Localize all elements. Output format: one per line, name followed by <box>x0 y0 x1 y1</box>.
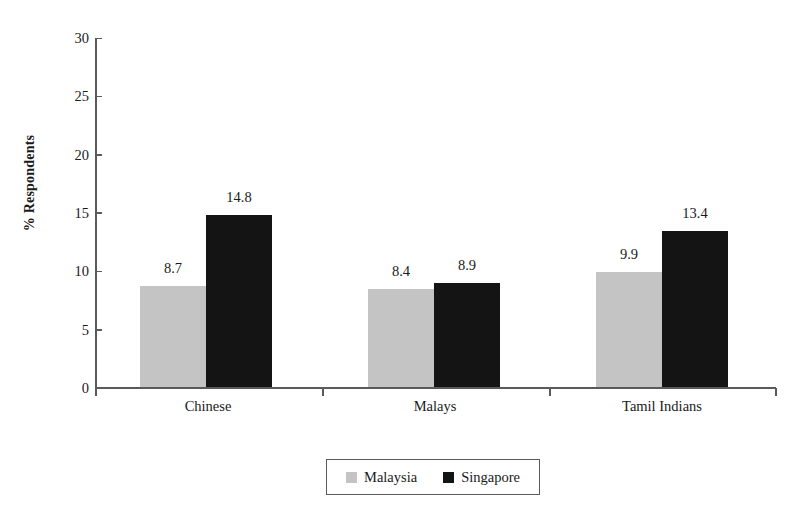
bar-value-chinese-malaysia: 8.7 <box>140 260 206 277</box>
x-tick-mark-end <box>775 388 777 396</box>
y-tick-label: 25 <box>49 88 89 104</box>
legend-entry-malaysia: Malaysia <box>346 470 417 485</box>
y-tick-label: 30 <box>49 30 89 46</box>
bar-malays-malaysia <box>368 289 434 387</box>
bar-tamil-indians-singapore <box>662 231 728 387</box>
x-category-label-tamil-indians: Tamil Indians <box>602 398 722 415</box>
legend-label-malaysia: Malaysia <box>364 470 417 485</box>
bar-value-malays-singapore: 8.9 <box>434 257 500 274</box>
y-tick-label: 20 <box>49 147 89 163</box>
bar-value-tamil-indians-malaysia: 9.9 <box>596 246 662 263</box>
y-tick-label: 10 <box>49 263 89 279</box>
x-tick-mark-2 <box>549 388 551 396</box>
y-tick-label: 15 <box>49 205 89 221</box>
y-tick-15: 15 <box>50 205 102 221</box>
bar-value-chinese-singapore: 14.8 <box>206 189 272 206</box>
bar-value-tamil-indians-singapore: 13.4 <box>662 205 728 222</box>
legend-label-singapore: Singapore <box>461 470 520 485</box>
x-tick-mark-start <box>95 388 97 396</box>
y-tick-20: 20 <box>50 147 102 163</box>
bar-tamil-indians-malaysia <box>596 272 662 387</box>
x-category-label-malays: Malays <box>375 398 495 415</box>
legend-entry-singapore: Singapore <box>443 470 520 485</box>
x-tick-mark-1 <box>322 388 324 396</box>
x-category-label-chinese: Chinese <box>148 398 268 415</box>
x-axis-line <box>95 387 776 389</box>
y-tick-10: 10 <box>50 263 102 279</box>
bar-malays-singapore <box>434 283 500 387</box>
bar-value-malays-malaysia: 8.4 <box>368 263 434 280</box>
legend-swatch-malaysia-icon <box>346 472 357 483</box>
y-tick-label: 5 <box>49 322 89 338</box>
legend-swatch-singapore-icon <box>443 472 454 483</box>
y-tick-5: 5 <box>50 322 102 338</box>
y-tick-label: 0 <box>49 380 89 396</box>
bar-chart: % Respondents 30 25 20 15 10 5 0 8.7 14.… <box>0 0 802 521</box>
y-tick-25: 25 <box>50 88 102 104</box>
legend: Malaysia Singapore <box>326 459 540 495</box>
y-tick-30: 30 <box>50 30 102 46</box>
bar-chinese-singapore <box>206 215 272 387</box>
bar-chinese-malaysia <box>140 286 206 387</box>
y-axis-title: % Respondents <box>22 113 38 253</box>
plot-area: 8.7 14.8 8.4 8.9 9.9 13.4 <box>96 38 776 387</box>
